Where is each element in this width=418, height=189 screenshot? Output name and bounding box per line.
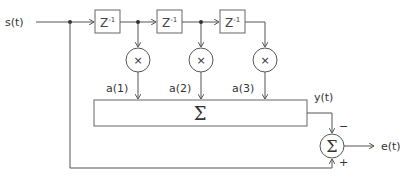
sigma-icon: Σ [326,137,337,156]
delay-block-3: Z-1 [220,10,245,33]
plus-sign: + [339,156,348,169]
input-label: s(t) [5,16,24,29]
filter-output-label: y(t) [314,91,333,104]
coef-label: a(1) [106,82,128,95]
lms-filter-diagram: s(t) Z-1 Z-1 Z-1 × a(1) × a(2) × a(3) [0,0,418,189]
junction-dot [136,20,140,24]
delay-block-2: Z-1 [157,10,182,33]
delay-block-1: Z-1 [95,10,120,33]
error-summer: Σ − + [320,120,348,169]
multiplier-2: × a(2) [169,48,213,95]
coef-label: a(2) [169,82,191,95]
multiply-icon: × [196,54,205,67]
coef-label: a(3) [232,82,254,95]
multiply-icon: × [260,54,269,67]
sigma-icon: Σ [194,103,207,124]
minus-sign: − [339,120,348,133]
summation-block: Σ [94,100,307,126]
output-label: e(t) [381,140,401,153]
multiply-icon: × [133,54,142,67]
multiplier-1: × a(1) [106,48,150,95]
multiplier-3: × a(3) [232,48,277,95]
junction-dot [199,20,203,24]
